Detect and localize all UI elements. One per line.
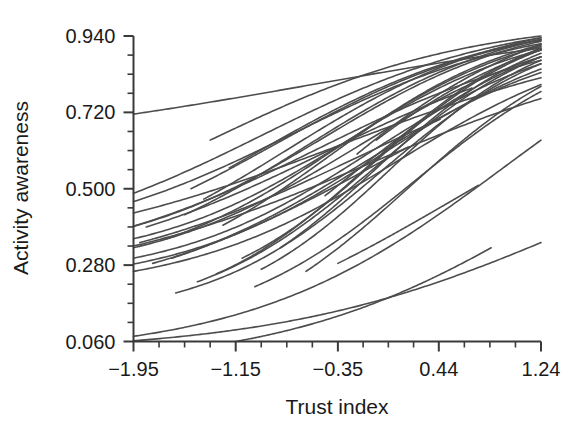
x-axis-tick-label: −0.35 [313, 358, 364, 380]
x-axis-tick-label: 0.44 [419, 358, 458, 380]
chart-curve [134, 38, 542, 194]
y-axis-tick-label: 0.060 [65, 331, 115, 353]
chart-canvas: 0.9400.7200.5000.2800.060 −1.95−1.15−0.3… [0, 0, 582, 428]
x-axis-tick-label: −1.15 [210, 358, 261, 380]
x-axis-tick-label: −1.95 [108, 358, 159, 380]
x-axis-title: Trust index [285, 395, 389, 418]
curve-layer [134, 36, 542, 342]
x-axis-tick-label: 1.24 [522, 358, 561, 380]
chart-curve [261, 60, 541, 269]
x-axis-tick-labels: −1.95−1.15−0.350.441.24 [108, 358, 560, 380]
y-axis-ticks [124, 36, 134, 342]
chart-curve [255, 92, 541, 287]
chart-figure: 0.9400.7200.5000.2800.060 −1.95−1.15−0.3… [0, 0, 582, 428]
y-axis-tick-label: 0.720 [65, 101, 115, 123]
chart-curve [134, 140, 542, 336]
x-axis-ticks [134, 342, 542, 352]
y-axis-title: Activity awareness [9, 101, 32, 275]
y-axis-tick-label: 0.280 [65, 254, 115, 276]
chart-curve [191, 40, 541, 189]
y-axis-tick-labels: 0.9400.7200.5000.2800.060 [65, 25, 115, 353]
y-axis-tick-label: 0.940 [65, 25, 115, 47]
y-axis-tick-label: 0.500 [65, 178, 115, 200]
axis-layer [124, 36, 542, 352]
